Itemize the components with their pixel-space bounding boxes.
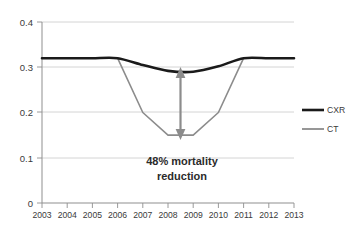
y-tick-labels: 0.4 0.3 0.2 0.1 0: [20, 17, 33, 209]
y-tick-label-3: 0.1: [20, 153, 33, 164]
x-tick-label-2004: 2004: [58, 210, 77, 220]
legend-label-ct: CT: [327, 124, 339, 134]
x-tick-label-2008: 2008: [158, 210, 177, 220]
x-tick-label-2006: 2006: [108, 210, 127, 220]
gridlines: [42, 22, 294, 158]
y-tick-label-1: 0.3: [20, 62, 33, 73]
y-tick-label-0: 0.4: [20, 17, 33, 28]
series-line-cxr: [42, 58, 294, 72]
mortality-gap-arrow: [176, 67, 186, 140]
x-tick-label-2005: 2005: [83, 210, 102, 220]
legend-item-cxr[interactable]: CXR: [302, 105, 345, 115]
chart-legend: CXR CT: [302, 105, 345, 134]
annotation-line-1: 48% mortality: [146, 155, 218, 167]
x-tick-label-2007: 2007: [133, 210, 152, 220]
x-tick-label-2012: 2012: [259, 210, 278, 220]
legend-label-cxr: CXR: [327, 105, 345, 115]
x-tick-labels: 2003 2004 2005 2006 2007 2008 2009 2010 …: [32, 210, 303, 220]
line-chart: 0.4 0.3 0.2 0.1 0 2003 2004 2005 2006 20…: [0, 0, 354, 232]
legend-item-ct[interactable]: CT: [302, 124, 339, 134]
x-tick-label-2009: 2009: [184, 210, 203, 220]
mortality-reduction-label: 48% mortality reduction: [146, 155, 218, 182]
chart-container: 0.4 0.3 0.2 0.1 0 2003 2004 2005 2006 20…: [0, 0, 354, 232]
y-axis-ticks: [37, 22, 42, 203]
x-tick-label-2011: 2011: [234, 210, 253, 220]
x-axis-ticks: [42, 203, 294, 208]
series-group: [42, 58, 294, 135]
annotation-line-2: reduction: [157, 170, 207, 182]
x-tick-label-2010: 2010: [209, 210, 228, 220]
y-tick-label-2: 0.2: [20, 107, 33, 118]
x-tick-label-2013: 2013: [284, 210, 303, 220]
x-tick-label-2003: 2003: [32, 210, 51, 220]
y-tick-label-4: 0: [28, 198, 33, 209]
